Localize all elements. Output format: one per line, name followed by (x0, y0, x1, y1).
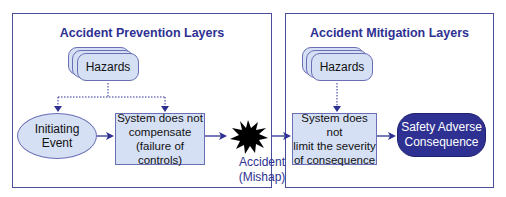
arrowhead-down-icon (161, 106, 169, 112)
arrowhead-down-icon (333, 106, 341, 112)
connectors-overlay (0, 0, 506, 197)
arrowhead-down-icon (54, 106, 62, 112)
prevention-hazard-dotted-connector (58, 83, 165, 108)
explosion-burst-icon (230, 120, 268, 154)
